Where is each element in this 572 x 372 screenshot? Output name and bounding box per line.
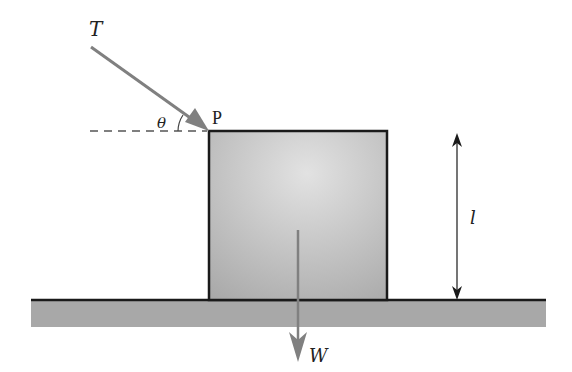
ground [31,300,546,327]
tension-label: T [89,17,104,41]
tension-arrow [91,47,209,131]
angle-arc [178,115,183,131]
height-dimension-arrow [452,133,462,300]
point-label: P [212,108,222,128]
height-label: l [470,207,476,228]
angle-label: θ [157,114,166,132]
free-body-diagram: T θ P W l [0,0,572,372]
weight-label: W [309,345,329,366]
